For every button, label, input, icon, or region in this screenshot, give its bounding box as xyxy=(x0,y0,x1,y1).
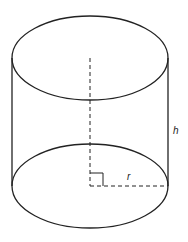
height-label: h xyxy=(173,125,179,136)
radius-label: r xyxy=(127,171,131,182)
cylinder-diagram: h r xyxy=(0,0,188,242)
right-angle-marker xyxy=(90,173,103,186)
